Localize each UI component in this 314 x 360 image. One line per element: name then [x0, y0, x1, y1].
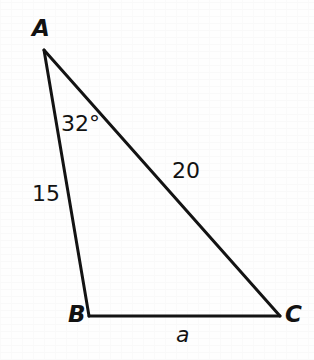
vertex-label-a: A — [32, 17, 50, 40]
triangle-figure: A B C 32° 15 20 a — [0, 0, 314, 360]
vertex-label-b: B — [68, 303, 86, 326]
side-label-bc: a — [176, 324, 189, 346]
side-label-ab: 15 — [32, 183, 60, 205]
vertex-label-c: C — [285, 303, 302, 326]
side-label-ac: 20 — [172, 160, 200, 182]
angle-label-a: 32° — [61, 113, 100, 135]
triangle-side-ac — [44, 50, 280, 316]
triangle-drawing — [0, 0, 314, 360]
